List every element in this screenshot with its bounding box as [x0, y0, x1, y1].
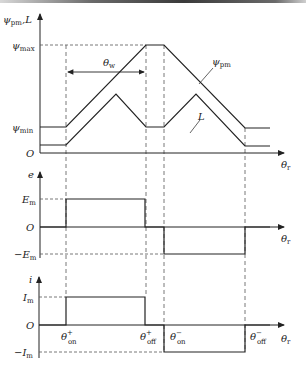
srm-waveform-diagram: ψpm,L ψmax ψmin O θw ψpm L θr e Em O −Em…	[0, 0, 306, 378]
em-pos-label: Em	[21, 194, 36, 207]
inductance-curve-label: L	[197, 111, 205, 122]
current-y-axis-label: i	[29, 274, 32, 285]
top-x-axis-label: θr	[281, 159, 291, 172]
theta-on-minus-label: θ−on	[170, 329, 186, 346]
current-x-axis-label: θr	[281, 333, 291, 346]
flux-inductance-panel: ψpm,L ψmax ψmin O θw ψpm L θr	[3, 14, 291, 172]
current-panel: i Im O −Im θ+on θ+off θ−on θ−off θr	[14, 274, 291, 360]
top-origin-label: O	[26, 148, 34, 159]
psi-pm-curve-label: ψpm	[212, 56, 231, 69]
theta-off-minus-label: θ−off	[250, 329, 267, 346]
em-neg-label: −Em	[14, 249, 37, 262]
emf-panel: e Em O −Em θr	[14, 169, 291, 262]
inductance-curve	[40, 94, 270, 146]
top-y-axis-label: ψpm,L	[3, 14, 32, 27]
theta-off-plus-label: θ+off	[140, 329, 157, 346]
emf-origin-label: O	[26, 222, 34, 233]
psi-min-label: ψmin	[12, 122, 34, 135]
psi-max-label: ψmax	[12, 40, 35, 53]
emf-y-axis-label: e	[28, 169, 34, 180]
theta-w-label: θw	[103, 57, 115, 70]
emf-x-axis-label: θr	[281, 233, 291, 246]
psi-pm-curve	[40, 45, 270, 128]
current-origin-label: O	[26, 320, 34, 331]
im-pos-label: Im	[22, 292, 34, 305]
psi-pm-leader	[199, 68, 213, 84]
theta-on-plus-label: θ+on	[61, 329, 77, 346]
im-neg-label: −Im	[14, 347, 33, 360]
